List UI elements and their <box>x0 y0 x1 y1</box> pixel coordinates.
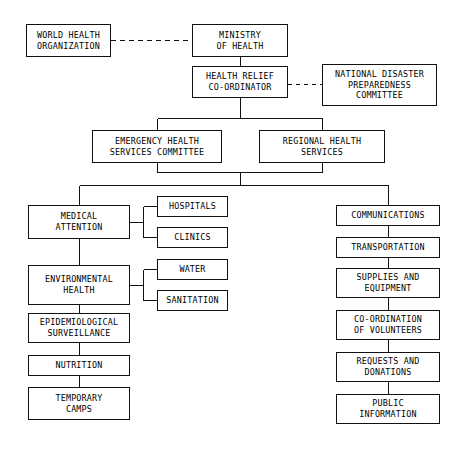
node-public-information: PUBLIC INFORMATION <box>336 394 440 424</box>
node-sanitation: SANITATION <box>157 290 228 311</box>
node-national-disaster-preparedness-committee: NATIONAL DISASTER PREPAREDNESS COMMITTEE <box>322 64 437 106</box>
node-clinics: CLINICS <box>157 227 228 248</box>
org-chart-diagram: MINISTRY OF HEALTH --> NATIONAL DISASTER… <box>0 0 461 451</box>
node-hospitals: HOSPITALS <box>157 196 228 217</box>
node-environmental-health: ENVIRONMENTAL HEALTH <box>28 265 130 305</box>
node-world-health-organization: WORLD HEALTH ORGANIZATION <box>26 24 111 57</box>
node-requests-and-donations: REQUESTS AND DONATIONS <box>336 352 440 382</box>
node-temporary-camps: TEMPORARY CAMPS <box>28 387 130 420</box>
node-emergency-health-services-committee: EMERGENCY HEALTH SERVICES COMMITTEE <box>92 130 222 163</box>
node-transportation: TRANSPORTATION <box>336 237 440 258</box>
node-nutrition: NUTRITION <box>28 355 130 376</box>
node-communications: COMMUNICATIONS <box>336 205 440 226</box>
node-ministry-of-health: MINISTRY OF HEALTH <box>192 24 288 57</box>
node-coordination-of-volunteers: CO-ORDINATION OF VOLUNTEERS <box>336 310 440 340</box>
node-supplies-and-equipment: SUPPLIES AND EQUIPMENT <box>336 268 440 298</box>
node-water: WATER <box>157 259 228 280</box>
node-health-relief-coordinator: HEALTH RELIEF CO-ORDINATOR <box>192 66 288 98</box>
node-medical-attention: MEDICAL ATTENTION <box>28 205 130 239</box>
node-epidemiological-surveillance: EPIDEMIOLOGICAL SURVEILLANCE <box>28 313 130 343</box>
node-regional-health-services: REGIONAL HEALTH SERVICES <box>259 130 385 163</box>
